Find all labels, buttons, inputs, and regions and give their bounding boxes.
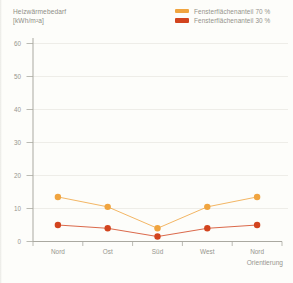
x-category-label-2: Süd (152, 248, 164, 255)
data-point-s1-süd-2 (154, 233, 160, 239)
y-tick-label-40: 40 (14, 106, 22, 113)
data-point-s1-nord-0 (55, 222, 61, 228)
y-tick-label-0: 0 (17, 238, 21, 245)
x-category-label-1: Ost (103, 248, 113, 255)
y-tick-label-60: 60 (14, 40, 22, 47)
data-point-s1-ost-1 (105, 225, 111, 231)
data-point-s0-west-3 (204, 204, 210, 210)
chart-figure: Heizwärmebedarf [kWh/m²a] Fensterflächen… (0, 0, 293, 283)
series-line-0 (58, 197, 257, 228)
data-point-s0-ost-1 (105, 204, 111, 210)
data-point-s1-west-3 (204, 225, 210, 231)
y-tick-label-30: 30 (14, 139, 22, 146)
x-category-label-4: Nord (250, 248, 264, 255)
data-point-s0-süd-2 (154, 225, 160, 231)
data-point-s1-nord-4 (254, 222, 260, 228)
x-axis-label: Orientierung (247, 259, 284, 267)
line-chart-canvas: 0102030405060NordOstSüdWestNordOrientier… (0, 0, 293, 283)
x-category-label-0: Nord (51, 248, 65, 255)
y-tick-label-20: 20 (14, 172, 22, 179)
y-tick-label-50: 50 (14, 73, 22, 80)
y-tick-label-10: 10 (14, 205, 22, 212)
x-category-label-3: West (200, 248, 215, 255)
data-point-s0-nord-4 (254, 194, 260, 200)
data-point-s0-nord-0 (55, 194, 61, 200)
